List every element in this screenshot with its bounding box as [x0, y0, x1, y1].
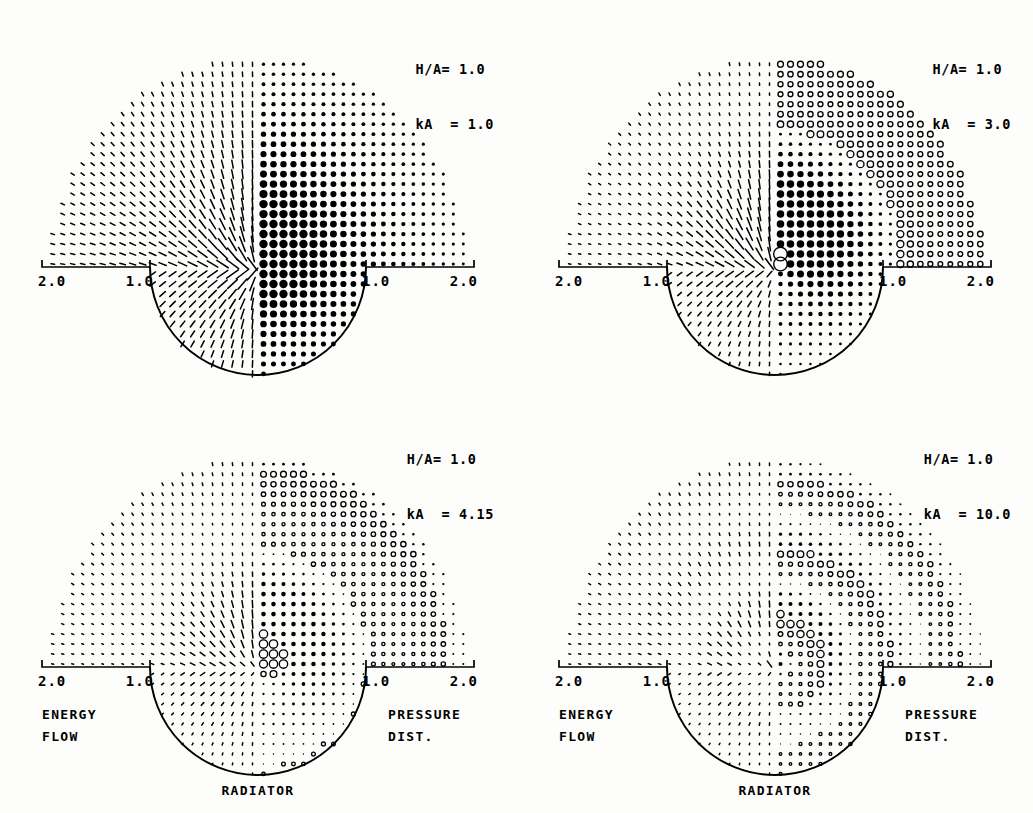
x-tick-label: 2.0 [967, 673, 995, 689]
x-tick-label: 2.0 [450, 273, 478, 289]
axis-group-2 [42, 660, 474, 667]
radiator-label: RADIATOR [738, 783, 811, 798]
side-labels-3: ENERGYFLOWPRESSUREDIST.RADIATOR [559, 707, 978, 798]
pressure-dist-label: PRESSURE [905, 707, 978, 722]
x-tick-label: 1.0 [126, 273, 154, 289]
panel-top-left: 2.01.01.02.0 H/A= 1.0 kA = 1.0 [0, 0, 516, 406]
tick-labels-1: 2.01.01.02.0 [555, 273, 995, 289]
param-block-bottom-left: H/A= 1.0 kA = 4.15 [407, 414, 494, 560]
param-block-bottom-right: H/A= 1.0 kA = 10.0 [924, 414, 1011, 560]
x-tick-label: 1.0 [643, 673, 671, 689]
x-tick-label: 1.0 [126, 673, 154, 689]
x-tick-label: 2.0 [450, 673, 478, 689]
x-tick-label: 1.0 [879, 273, 907, 289]
field-group-0 [51, 62, 465, 377]
x-tick-label: 1.0 [643, 273, 671, 289]
panel-bottom-right: 2.01.01.02.0 ENERGYFLOWPRESSUREDIST.RADI… [517, 400, 1033, 806]
ka-line: kA = 4.15 [407, 505, 494, 523]
ka-line: kA = 10.0 [924, 505, 1011, 523]
x-tick-label: 1.0 [362, 273, 390, 289]
tick-labels-0: 2.01.01.02.0 [38, 273, 478, 289]
ha-line: H/A= 1.0 [932, 60, 1011, 78]
field-group-1 [568, 61, 983, 375]
energy-flow-label: FLOW [559, 729, 596, 744]
x-tick-label: 2.0 [967, 273, 995, 289]
x-tick-label: 1.0 [879, 673, 907, 689]
tick-labels-3: 2.01.01.02.0 [555, 673, 995, 689]
pressure-dist-label: DIST. [905, 729, 951, 744]
x-tick-label: 2.0 [38, 673, 66, 689]
tick-labels-2: 2.01.01.02.0 [38, 673, 478, 689]
energy-flow-label: ENERGY [42, 707, 97, 722]
ha-line: H/A= 1.0 [407, 450, 494, 468]
panel-top-right: 2.01.01.02.0 H/A= 1.0 kA = 3.0 [517, 0, 1033, 406]
axis-group-0 [42, 260, 474, 267]
radiator-label: RADIATOR [221, 783, 294, 798]
side-labels-2: ENERGYFLOWPRESSUREDIST.RADIATOR [42, 707, 461, 798]
pressure-dist-label: DIST. [388, 729, 434, 744]
param-block-top-right: H/A= 1.0 kA = 3.0 [932, 24, 1011, 170]
panel-bottom-left: 2.01.01.02.0 ENERGYFLOWPRESSUREDIST.RADI… [0, 400, 516, 806]
ka-line: kA = 1.0 [415, 115, 494, 133]
pressure-dist-label: PRESSURE [388, 707, 461, 722]
axis-group-3 [559, 660, 991, 667]
x-tick-label: 2.0 [555, 673, 583, 689]
energy-flow-label: ENERGY [559, 707, 614, 722]
figure-canvas: 2.01.01.02.0 H/A= 1.0 kA = 1.0 2.01.01.0… [0, 0, 1033, 813]
x-tick-label: 2.0 [555, 273, 583, 289]
ha-line: H/A= 1.0 [924, 450, 1011, 468]
energy-flow-label: FLOW [42, 729, 79, 744]
ka-line: kA = 3.0 [932, 115, 1011, 133]
x-tick-label: 1.0 [362, 673, 390, 689]
x-tick-label: 2.0 [38, 273, 66, 289]
param-block-top-left: H/A= 1.0 kA = 1.0 [415, 24, 494, 170]
ha-line: H/A= 1.0 [415, 60, 494, 78]
